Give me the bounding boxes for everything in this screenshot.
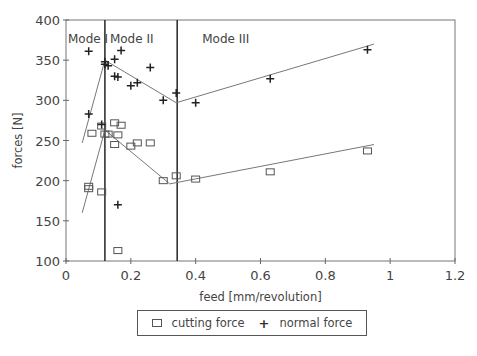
legend-label: normal force — [280, 316, 353, 330]
x-tick-label: 0.6 — [250, 268, 271, 283]
x-axis-title: feed [mm/revolution] — [199, 290, 321, 304]
normal-force-point — [146, 63, 154, 71]
y-tick-label: 200 — [35, 174, 60, 189]
normal-force-point — [192, 99, 200, 107]
cutting-force-point — [114, 132, 122, 138]
cutting-force-point — [111, 142, 119, 148]
fit-line-normal-force — [82, 44, 374, 143]
fit-line-cutting-force — [82, 130, 374, 213]
normal-force-point — [85, 47, 93, 55]
x-tick-label: 1.2 — [445, 268, 466, 283]
legend-label: cutting force — [172, 316, 245, 330]
mode-label: Mode II — [110, 32, 154, 46]
normal-force-point — [111, 55, 119, 63]
x-tick-label: 0.8 — [315, 268, 336, 283]
x-tick-label: 0.2 — [120, 268, 141, 283]
y-tick-label: 100 — [35, 254, 60, 269]
normal-force-point — [172, 89, 180, 97]
y-tick-label: 250 — [35, 134, 60, 149]
x-tick-label: 0 — [62, 268, 70, 283]
normal-force-point — [117, 47, 125, 55]
x-tick-label: 1 — [386, 268, 394, 283]
legend-item-cutting-force: cutting force — [152, 316, 245, 330]
legend-item-normal-force: + normal force — [259, 316, 353, 330]
cutting-force-point — [172, 173, 180, 179]
plus-marker-icon: + — [259, 317, 270, 330]
y-axis-title: forces [N] — [11, 112, 25, 168]
y-tick-label: 350 — [35, 53, 60, 68]
cutting-force-point — [146, 140, 154, 146]
plot-frame — [66, 20, 455, 261]
cutting-force-point — [266, 169, 274, 175]
legend: cutting force + normal force — [137, 310, 367, 336]
cutting-force-point — [114, 248, 122, 254]
square-marker-icon — [152, 319, 162, 327]
cutting-force-point — [363, 148, 371, 154]
y-tick-label: 150 — [35, 214, 60, 229]
cutting-force-point — [88, 130, 96, 136]
normal-force-point — [159, 96, 167, 104]
chart-canvas: 10015020025030035040000.20.40.60.811.2fe… — [0, 0, 477, 356]
mode-label: Mode III — [202, 32, 249, 46]
x-tick-label: 0.4 — [185, 268, 206, 283]
y-tick-label: 400 — [35, 13, 60, 28]
normal-force-point — [114, 201, 122, 209]
mode-label: Mode I — [68, 32, 108, 46]
y-tick-label: 300 — [35, 93, 60, 108]
normal-force-point — [85, 110, 93, 118]
